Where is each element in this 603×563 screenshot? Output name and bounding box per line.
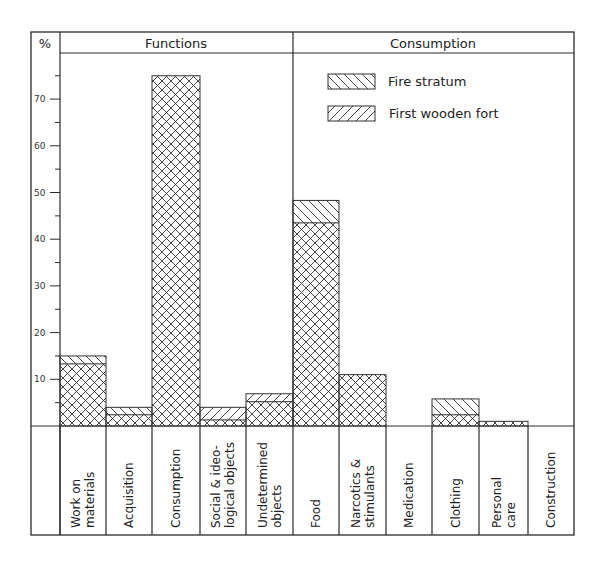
category-label: care	[504, 502, 518, 528]
bar-group	[60, 356, 106, 426]
category-labels: Work onmaterialsAcquisitionConsumptionSo…	[60, 426, 558, 535]
category-label: Undetermined	[256, 442, 270, 528]
category-label: objects	[270, 485, 284, 528]
y-tick-label: 20	[34, 328, 46, 338]
legend: Fire stratum First wooden fort	[328, 74, 499, 121]
bars	[60, 76, 528, 426]
bar-group	[339, 375, 386, 426]
group-title-consumption: Consumption	[390, 36, 476, 51]
bar-first-wooden-fort	[246, 394, 293, 426]
bar-group	[246, 394, 293, 426]
y-tick-label: 30	[34, 281, 46, 291]
bar-first-wooden-fort	[106, 415, 152, 426]
y-tick-label: 40	[34, 234, 46, 244]
bar-first-wooden-fort	[479, 421, 528, 426]
category-label: stimulants	[363, 465, 377, 528]
category-label: Consumption	[169, 449, 183, 528]
bar-group	[106, 407, 152, 426]
category-label: Acquisition	[122, 462, 136, 528]
category-label: Narcotics &	[349, 459, 363, 528]
bar-first-wooden-fort	[200, 407, 246, 426]
y-unit-label: %	[39, 36, 51, 51]
bar-group	[152, 76, 200, 426]
y-tick-label: 60	[34, 141, 46, 151]
legend-item-fire-stratum: Fire stratum	[328, 74, 467, 89]
bar-first-wooden-fort	[339, 375, 386, 426]
bar-chart: % Functions Consumption Fire stratum Fir…	[0, 0, 603, 563]
category-label: Construction	[544, 452, 558, 528]
y-axis-ticks: 10203040506070	[34, 76, 60, 403]
legend-label: First wooden fort	[389, 106, 499, 121]
category-label: Work on	[69, 479, 83, 528]
legend-label: Fire stratum	[388, 74, 467, 89]
slash-hatch-swatch-icon	[328, 106, 375, 121]
group-title-functions: Functions	[145, 36, 207, 51]
bar-first-wooden-fort	[293, 223, 339, 426]
bar-group	[200, 407, 246, 426]
y-tick-label: 70	[34, 94, 46, 104]
bar-group	[432, 399, 479, 426]
category-label: materials	[83, 472, 97, 528]
category-label: Social & ideo-	[209, 445, 223, 528]
category-label: Medication	[402, 462, 416, 528]
bar-first-wooden-fort	[152, 76, 200, 426]
category-label: Personal	[490, 477, 504, 528]
backslash-hatch-swatch-icon	[328, 74, 375, 89]
category-label: Food	[309, 499, 323, 528]
category-label: logical objects	[223, 442, 237, 528]
bar-first-wooden-fort	[432, 415, 479, 426]
bar-group	[479, 421, 528, 426]
y-tick-label: 10	[34, 374, 46, 384]
legend-item-first-wooden-fort: First wooden fort	[328, 106, 499, 121]
bar-group	[293, 200, 339, 426]
y-tick-label: 50	[34, 188, 46, 198]
bar-first-wooden-fort	[60, 364, 106, 426]
category-label: Clothing	[449, 478, 463, 528]
